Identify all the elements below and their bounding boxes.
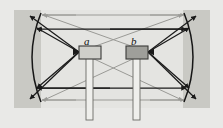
stem-b — [133, 58, 140, 120]
block-b[interactable] — [126, 46, 148, 59]
label-a: a — [84, 36, 90, 47]
stem-a — [86, 58, 93, 120]
ray-diagram-svg — [0, 0, 223, 128]
block-a[interactable] — [79, 46, 101, 59]
inner-panel-background — [41, 10, 183, 108]
label-b: b — [131, 36, 137, 47]
figure-canvas: a b — [0, 0, 223, 128]
